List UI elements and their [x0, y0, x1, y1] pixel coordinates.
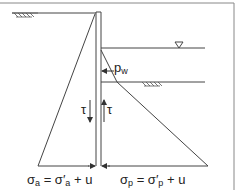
soil-hatch-icon — [142, 82, 162, 86]
passive-equation: σp = σ′p + u — [120, 172, 185, 188]
water-table-icon — [175, 42, 183, 48]
active-equation: σa = σ′a + u — [27, 172, 92, 188]
eq-rest: + u — [163, 172, 185, 187]
active-pressure-diagram — [38, 14, 95, 166]
soil-hatch-icon — [12, 13, 38, 17]
retaining-wall-diagram — [0, 0, 236, 193]
eq-sigma: σ — [120, 172, 128, 187]
eq-mid: = σ′ — [133, 172, 158, 187]
shear-label-right: τ — [107, 102, 112, 117]
eq-mid: = σ′ — [40, 172, 65, 187]
eq-rest: + u — [70, 172, 92, 187]
water-pressure-label: pw — [114, 60, 128, 76]
eq-sigma: σ — [27, 172, 35, 187]
shear-label-left: τ — [81, 102, 86, 117]
frame — [0, 3, 234, 190]
sheet-pile-wall — [96, 12, 101, 166]
pw-sub: w — [121, 66, 128, 76]
